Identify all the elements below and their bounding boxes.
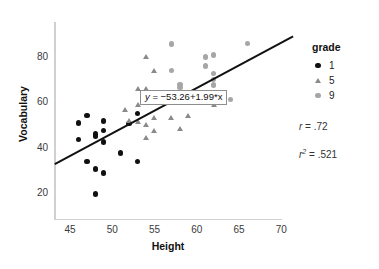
data-point-grade-9 <box>203 63 208 68</box>
legend-entry-9[interactable]: 9 <box>312 88 374 103</box>
scatter-plot-figure: 20406080 455055606570 Vocabulary Height … <box>0 0 379 269</box>
legend-title: grade <box>312 41 374 53</box>
data-point-grade-1 <box>135 111 140 116</box>
equation-expression: = −53.26+1.99*x <box>150 91 223 102</box>
data-point-grade-1 <box>84 159 89 164</box>
legend-marker-shape <box>315 63 321 69</box>
data-point-grade-9 <box>203 54 208 59</box>
r2-value: = .521 <box>306 149 337 160</box>
x-tick-50: 50 <box>100 224 124 235</box>
x-tick-55: 55 <box>143 224 167 235</box>
r-squared-stat: r2 = .521 <box>299 148 337 160</box>
legend-marker-triangle-icon <box>312 78 324 83</box>
data-point-grade-5 <box>126 118 132 123</box>
legend-marker-shape <box>315 93 321 99</box>
data-point-grade-5 <box>168 115 174 120</box>
r-value: = .72 <box>302 121 327 132</box>
x-axis-line <box>54 219 282 221</box>
legend-marker-circle-icon <box>312 93 324 99</box>
data-point-grade-1 <box>76 120 81 125</box>
data-point-grade-1 <box>76 137 81 142</box>
data-point-grade-1 <box>101 128 106 133</box>
data-point-grade-5 <box>185 113 191 118</box>
x-tick-45: 45 <box>58 224 82 235</box>
legend-marker-shape <box>315 78 321 83</box>
data-point-grade-9 <box>169 68 174 73</box>
data-point-grade-5 <box>122 107 128 112</box>
legend-entry-1[interactable]: 1 <box>312 58 374 73</box>
data-point-grade-5 <box>135 119 141 124</box>
data-point-grade-9 <box>211 71 216 76</box>
data-point-grade-5 <box>151 115 157 120</box>
x-tick-70: 70 <box>269 224 293 235</box>
legend-label-1: 1 <box>329 60 335 71</box>
data-point-grade-9 <box>228 97 233 102</box>
data-point-grade-9 <box>169 41 174 46</box>
data-point-grade-1 <box>84 113 89 118</box>
y-tick-20: 20 <box>24 187 48 198</box>
data-point-grade-1 <box>93 191 98 196</box>
data-point-grade-9 <box>211 52 216 57</box>
x-tick-60: 60 <box>185 224 209 235</box>
data-point-grade-5 <box>143 135 149 140</box>
y-axis-title: Vocabulary <box>17 69 29 159</box>
legend-label-5: 5 <box>329 75 335 86</box>
data-point-grade-1 <box>93 133 98 138</box>
legend: grade 159 <box>312 41 374 103</box>
data-point-grade-5 <box>143 54 149 59</box>
data-point-grade-1 <box>118 150 123 155</box>
y-axis-line <box>54 22 56 219</box>
data-point-grade-1 <box>93 166 98 171</box>
data-point-grade-5 <box>151 68 157 73</box>
data-point-grade-5 <box>177 126 183 131</box>
data-point-grade-9 <box>211 77 216 82</box>
data-point-grade-1 <box>101 118 106 123</box>
correlation-r-stat: r = .72 <box>299 121 328 132</box>
legend-label-9: 9 <box>329 90 335 101</box>
data-point-grade-9 <box>245 41 250 46</box>
legend-marker-circle-icon <box>312 63 324 69</box>
regression-equation-box: y = −53.26+1.99*x <box>140 90 227 106</box>
y-tick-80: 80 <box>24 51 48 62</box>
data-point-grade-5 <box>143 122 149 127</box>
data-point-grade-9 <box>211 82 216 87</box>
data-point-grade-5 <box>151 128 157 133</box>
x-axis-title: Height <box>54 240 282 252</box>
data-point-grade-1 <box>135 159 140 164</box>
legend-entries: 159 <box>312 58 374 103</box>
x-tick-65: 65 <box>227 224 251 235</box>
data-point-grade-1 <box>101 139 106 144</box>
legend-entry-5[interactable]: 5 <box>312 73 374 88</box>
data-point-grade-1 <box>101 170 106 175</box>
